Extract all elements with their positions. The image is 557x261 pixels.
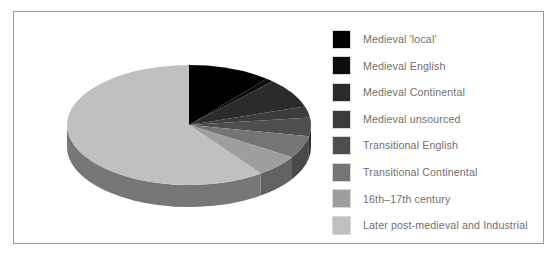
legend-label-transitional-english: Transitional English [363,140,458,151]
legend-item[interactable]: Transitional English [332,132,544,159]
legend-item[interactable]: Medieval unsourced [332,106,544,133]
legend-label-medieval-english: Medieval English [363,61,445,72]
legend-label-medieval-local: Medieval 'local' [363,34,437,45]
legend-swatch-medieval-continental [332,83,351,102]
legend-swatch-transitional-continental [332,163,351,182]
legend-item[interactable]: Medieval English [332,53,544,80]
legend-item[interactable]: 16th–17th century [332,186,544,213]
legend-swatch-medieval-unsourced [332,110,351,129]
legend-label-medieval-continental: Medieval Continental [363,87,465,98]
pie-chart-area [14,12,334,245]
legend-label-later-post-medieval: Later post-medieval and Industrial [363,220,528,231]
legend-label-transitional-continental: Transitional Continental [363,167,478,178]
figure-root: Medieval 'local' Medieval English Mediev… [0,0,557,261]
chart-legend: Medieval 'local' Medieval English Mediev… [332,26,544,246]
legend-item[interactable]: Medieval 'local' [332,26,544,53]
legend-swatch-later-post-medieval [332,216,351,235]
legend-swatch-medieval-local [332,30,351,49]
figure-frame: Medieval 'local' Medieval English Mediev… [13,11,544,244]
legend-label-16th-17th-century: 16th–17th century [363,194,450,205]
pie-top [67,65,311,185]
legend-item[interactable]: Medieval Continental [332,79,544,106]
pie-chart-svg [32,44,322,224]
legend-swatch-16th-17th-century [332,189,351,208]
legend-swatch-medieval-english [332,56,351,75]
legend-item[interactable]: Later post-medieval and Industrial [332,212,544,239]
legend-swatch-transitional-english [332,136,351,155]
legend-label-medieval-unsourced: Medieval unsourced [363,114,461,125]
legend-item[interactable]: Transitional Continental [332,159,544,186]
